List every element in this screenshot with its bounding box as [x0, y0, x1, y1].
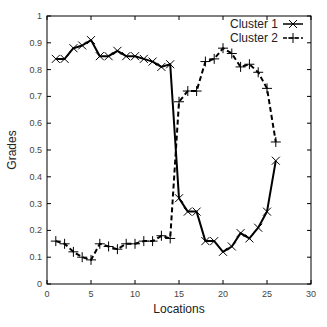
plus-marker-icon — [262, 83, 272, 93]
legend-item: Cluster 2 — [230, 31, 303, 45]
y-tick-label: 0.3 — [29, 199, 42, 209]
plus-marker-icon — [121, 239, 131, 249]
x-tick-label: 10 — [130, 289, 140, 299]
series-cluster-1 — [52, 36, 280, 256]
plus-marker-icon — [130, 239, 140, 249]
y-tick-label: 0.2 — [29, 225, 42, 235]
axis-ticks: 05101520253000.10.20.30.40.50.60.70.80.9… — [29, 11, 316, 299]
legend-label: Cluster 2 — [230, 31, 278, 45]
y-tick-label: 0 — [37, 279, 42, 289]
x-marker-icon — [219, 248, 227, 256]
x-marker-icon — [113, 47, 121, 55]
x-tick-label: 25 — [262, 289, 272, 299]
x-marker-icon — [87, 36, 95, 44]
y-tick-label: 0.6 — [29, 118, 42, 128]
y-tick-label: 0.4 — [29, 172, 42, 182]
x-marker-icon — [237, 229, 245, 237]
y-tick-label: 0.8 — [29, 65, 42, 75]
y-tick-label: 0.7 — [29, 91, 42, 101]
x-marker-icon — [228, 242, 236, 250]
x-marker-icon — [245, 234, 253, 242]
plot-frame — [47, 16, 311, 284]
plus-marker-icon — [200, 57, 210, 67]
x-tick-label: 5 — [88, 289, 93, 299]
series-line — [56, 40, 276, 252]
plus-marker-icon — [236, 62, 246, 72]
x-marker-icon — [254, 224, 262, 232]
plus-marker-icon — [165, 233, 175, 243]
plus-marker-icon — [77, 252, 87, 262]
plus-marker-icon — [86, 255, 96, 265]
y-tick-label: 0.1 — [29, 252, 42, 262]
plus-marker-icon — [95, 239, 105, 249]
y-tick-label: 0.5 — [29, 145, 42, 155]
plus-marker-icon — [183, 86, 193, 96]
legend: Cluster 1Cluster 2 — [230, 17, 303, 45]
x-tick-label: 20 — [218, 289, 228, 299]
x-tick-label: 30 — [306, 289, 316, 299]
plus-marker-icon — [139, 236, 149, 246]
series-line — [56, 48, 276, 260]
plus-marker-icon — [192, 86, 202, 96]
plus-marker-icon — [218, 43, 228, 53]
plus-marker-icon — [271, 137, 281, 147]
x-tick-label: 0 — [44, 289, 49, 299]
plus-marker-icon — [148, 236, 158, 246]
plot-area-border — [47, 16, 311, 284]
y-tick-label: 0.9 — [29, 38, 42, 48]
y-axis-label: Grades — [5, 130, 19, 169]
plus-marker-icon — [253, 67, 263, 77]
legend-label: Cluster 1 — [230, 17, 278, 31]
plus-marker-icon — [51, 236, 61, 246]
x-tick-label: 15 — [174, 289, 184, 299]
legend-item: Cluster 1 — [230, 17, 303, 31]
plus-marker-icon — [156, 231, 166, 241]
plus-marker-icon — [112, 244, 122, 254]
plus-marker-icon — [288, 33, 298, 43]
y-tick-label: 1 — [37, 11, 42, 21]
series-layer — [51, 36, 281, 265]
plus-marker-icon — [60, 239, 70, 249]
series-cluster-2 — [51, 43, 281, 265]
line-chart: 05101520253000.10.20.30.40.50.60.70.80.9… — [0, 0, 327, 327]
x-axis-label: Locations — [153, 302, 204, 316]
plus-marker-icon — [104, 241, 114, 251]
